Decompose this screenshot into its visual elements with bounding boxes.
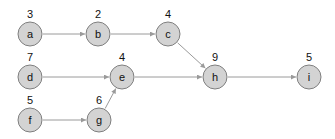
- node-weight-label: 2: [95, 8, 101, 20]
- node-weight-label: 6: [96, 94, 102, 106]
- node-h[interactable]: 9h: [203, 51, 227, 89]
- edge-g-e: [105, 88, 116, 108]
- node-e[interactable]: 4e: [110, 51, 134, 89]
- node-g[interactable]: 6g: [87, 94, 111, 132]
- node-id-label: b: [95, 28, 101, 40]
- node-weight-label: 9: [212, 51, 218, 63]
- edge-layer: [43, 34, 296, 120]
- node-f[interactable]: 5f: [18, 94, 42, 132]
- node-id-label: c: [165, 28, 171, 40]
- node-b[interactable]: 2b: [86, 8, 110, 46]
- edge-c-h: [178, 43, 206, 68]
- node-weight-label: 4: [119, 51, 125, 63]
- node-a[interactable]: 3a: [18, 8, 42, 46]
- node-id-label: i: [308, 71, 310, 83]
- node-id-label: a: [27, 28, 34, 40]
- node-c[interactable]: 4c: [156, 8, 180, 46]
- node-d[interactable]: 7d: [18, 51, 42, 89]
- node-id-label: d: [27, 71, 33, 83]
- node-weight-label: 3: [27, 8, 33, 20]
- node-id-label: g: [96, 114, 102, 126]
- dependency-graph: 3a2b4c7d4e5f6g9h5i: [0, 0, 335, 139]
- node-layer: 3a2b4c7d4e5f6g9h5i: [18, 8, 321, 132]
- node-weight-label: 5: [306, 51, 312, 63]
- node-weight-label: 7: [27, 51, 33, 63]
- node-weight-label: 5: [27, 94, 33, 106]
- node-id-label: h: [212, 71, 218, 83]
- node-weight-label: 4: [165, 8, 171, 20]
- node-i[interactable]: 5i: [297, 51, 321, 89]
- node-id-label: e: [119, 71, 125, 83]
